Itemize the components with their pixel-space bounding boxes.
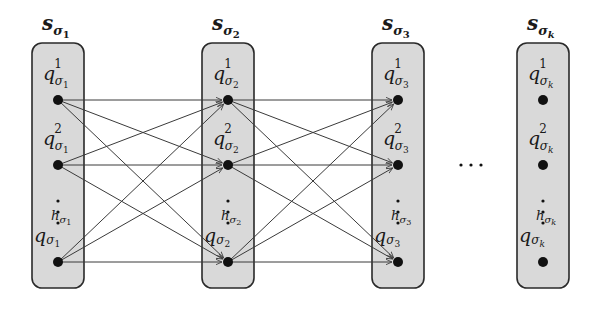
state-node-sk-1: [538, 95, 548, 105]
state-node-s2-1: [223, 95, 233, 105]
state-node-sk-2: [538, 160, 548, 170]
state-node-sk-3: [538, 257, 548, 267]
state-node-s3-1: [393, 95, 403, 105]
horizontal-ellipsis-dot: [479, 163, 482, 166]
vertical-ellipsis-dot: [56, 199, 59, 202]
state-layer-diagram: sσ1q1σ1q2σ1hσ1qσ1sσ2q1σ2q2σ2hσ2qσ2sσ3q1σ…: [0, 0, 599, 309]
state-node-s1-2: [53, 160, 63, 170]
state-node-s2-3: [223, 257, 233, 267]
column-title-sk: sσk: [526, 11, 555, 40]
column-title-s3: sσ3: [381, 11, 410, 40]
state-node-s2-2: [223, 160, 233, 170]
labels: sσ1q1σ1q2σ1hσ1qσ1sσ2q1σ2q2σ2hσ2qσ2sσ3q1σ…: [34, 11, 556, 249]
horizontal-ellipsis-dot: [469, 163, 472, 166]
vertical-ellipsis-dot: [226, 199, 229, 202]
state-node-s1-1: [53, 95, 63, 105]
column-title-s2: sσ2: [211, 11, 240, 40]
vertical-ellipsis-dot: [541, 199, 544, 202]
state-node-s1-3: [53, 257, 63, 267]
state-node-s3-3: [393, 257, 403, 267]
column-title-s1: sσ1: [41, 11, 70, 40]
vertical-ellipsis-dot: [396, 199, 399, 202]
horizontal-ellipsis-dot: [459, 163, 462, 166]
state-nodes: [53, 95, 548, 267]
state-node-s3-2: [393, 160, 403, 170]
